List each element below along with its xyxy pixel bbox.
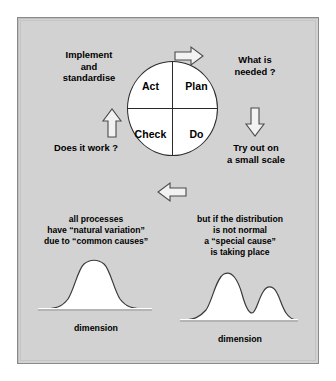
cycle-label-try-out-small-scale: Try out on a small scale — [210, 142, 302, 165]
cycle-label-what-is-needed: What is needed ? — [214, 54, 296, 77]
distribution-special-cause-axis-label: dimension — [170, 334, 310, 344]
distribution-common-cause: all processes have “natural variation” d… — [26, 214, 166, 333]
distribution-special-cause: but if the distribution is not normal a … — [170, 214, 310, 344]
distribution-common-cause-axis-label: dimension — [26, 323, 166, 333]
quadrant-plan-label: Plan — [185, 80, 208, 92]
quadrant-plan: Plan — [174, 62, 219, 109]
arrow-up-icon — [101, 108, 123, 138]
quadrant-do-label: Do — [189, 128, 203, 140]
arrow-left-icon — [157, 181, 187, 203]
quadrant-act-label: Act — [142, 80, 159, 92]
quadrant-act: Act — [128, 62, 173, 109]
arrow-right-icon — [174, 45, 204, 67]
diagram-panel: Act Plan Check Do — [17, 17, 319, 364]
quadrant-check-label: Check — [134, 128, 166, 140]
normal-curve-chart — [26, 257, 166, 319]
arrow-down-icon — [244, 107, 266, 137]
cycle-label-does-it-work: Does it work ? — [38, 142, 134, 154]
distribution-special-cause-caption: but if the distribution is not normal a … — [170, 214, 310, 258]
bimodal-curve-chart — [170, 268, 310, 330]
pdca-wheel: Act Plan Check Do — [127, 61, 218, 156]
quadrant-check: Check — [128, 110, 173, 157]
distribution-common-cause-caption: all processes have “natural variation” d… — [26, 214, 166, 247]
figure-canvas: Act Plan Check Do — [0, 0, 336, 381]
cycle-label-implement: Implement and standardise — [48, 49, 130, 84]
